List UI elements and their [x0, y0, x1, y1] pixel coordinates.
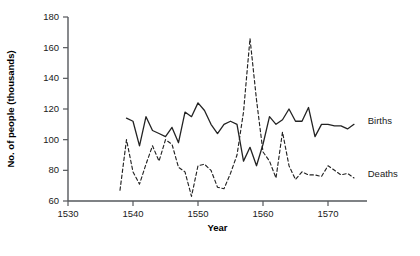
series-line-deaths: [120, 38, 354, 196]
x-tick-label: 1530: [57, 208, 78, 219]
y-tick-label: 60: [48, 195, 59, 206]
series-labels-group: BirthsDeaths: [368, 115, 398, 180]
y-tick-label: 120: [43, 103, 59, 114]
deaths-label: Deaths: [368, 168, 398, 179]
axes-group: [68, 17, 367, 201]
x-tick-label: 1570: [317, 208, 338, 219]
x-tick-label: 1560: [252, 208, 273, 219]
x-axis-ticks: 15301540155015601570: [57, 201, 338, 219]
y-tick-label: 140: [43, 72, 59, 83]
series-line-births: [127, 103, 355, 166]
chart-canvas: 6080100120140160180 15301540155015601570…: [0, 0, 420, 256]
births-label: Births: [368, 115, 393, 126]
y-axis-ticks: 6080100120140160180: [43, 11, 68, 206]
y-axis-title: No. of people (thousands): [5, 50, 16, 167]
x-axis-title: Year: [207, 222, 227, 233]
y-tick-label: 160: [43, 42, 59, 53]
y-tick-label: 100: [43, 134, 59, 145]
x-tick-label: 1550: [187, 208, 208, 219]
series-group: [120, 38, 354, 196]
x-tick-label: 1540: [122, 208, 143, 219]
y-tick-label: 180: [43, 11, 59, 22]
line-chart: 6080100120140160180 15301540155015601570…: [0, 0, 420, 256]
y-tick-label: 80: [48, 164, 59, 175]
